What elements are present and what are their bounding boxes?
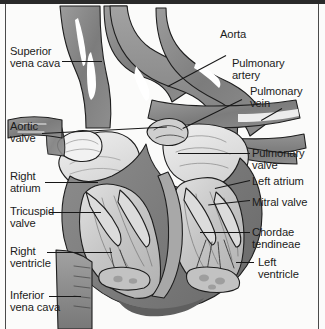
label-mitral-valve: Mitral valve bbox=[252, 196, 307, 208]
leader-right-atrium bbox=[45, 182, 98, 183]
label-pulmonary-valve: Pulmonary valve bbox=[252, 147, 305, 172]
heart-anatomy-figure: Superior vena cava Aortic valve Right at… bbox=[0, 0, 325, 329]
leader-superior-vena-cava bbox=[62, 61, 102, 62]
leader-pulmonary-valve bbox=[178, 153, 250, 154]
leader-right-ventricle bbox=[47, 252, 112, 253]
label-left-atrium: Left atrium bbox=[252, 175, 304, 187]
label-tricuspid-valve: Tricuspid valve bbox=[10, 205, 54, 230]
label-aortic-valve: Aortic valve bbox=[10, 120, 38, 145]
leader-chordae-tendineae bbox=[200, 232, 250, 233]
label-pulmonary-vein: Pulmonary vein bbox=[250, 85, 303, 110]
label-pulmonary-artery: Pulmonary artery bbox=[232, 57, 285, 82]
leader-tricuspid-valve bbox=[49, 212, 101, 213]
label-inferior-vena-cava: Inferior vena cava bbox=[10, 289, 60, 314]
label-left-ventricle: Left ventricle bbox=[258, 256, 299, 281]
label-superior-vena-cava: Superior vena cava bbox=[10, 45, 60, 70]
leader-left-ventricle bbox=[236, 262, 254, 263]
label-right-ventricle: Right ventricle bbox=[10, 245, 51, 270]
label-aorta: Aorta bbox=[220, 28, 246, 40]
label-right-atrium: Right atrium bbox=[10, 170, 40, 195]
label-chordae-tendineae: Chordae tendineae bbox=[252, 226, 300, 251]
